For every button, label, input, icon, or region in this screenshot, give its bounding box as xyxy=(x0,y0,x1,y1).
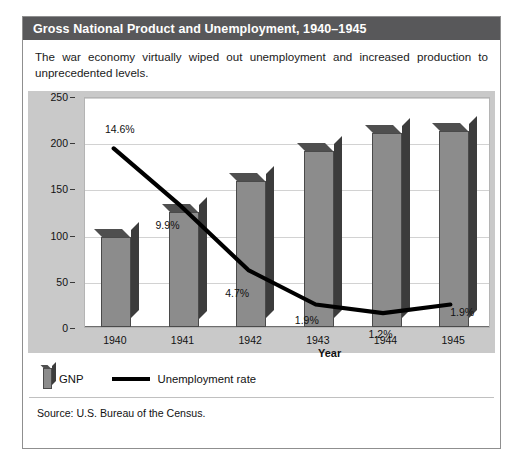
y-tick-mark xyxy=(70,236,75,237)
plot-area: 14.6%9.9%4.7%1.9%1.2%1.9% xyxy=(84,97,490,328)
figure-title: Gross National Product and Unemployment,… xyxy=(33,22,367,36)
bar-swatch-icon xyxy=(43,368,52,389)
figure-box: Gross National Product and Unemployment,… xyxy=(22,16,501,449)
chart-legend: GNP Unemployment rate xyxy=(29,359,494,398)
y-tick-label: 50 xyxy=(56,276,68,288)
line-series-unemployment xyxy=(85,98,489,328)
point-label-1941: 9.9% xyxy=(156,219,180,231)
x-tick-label-1944: 1944 xyxy=(374,334,397,346)
x-tick-label-1945: 1945 xyxy=(441,334,464,346)
y-tick-label: 250 xyxy=(50,91,68,103)
figure-header: Gross National Product and Unemployment,… xyxy=(23,17,500,40)
y-tick-label: 100 xyxy=(50,230,68,242)
x-tick-label-1940: 1940 xyxy=(103,334,126,346)
x-tick-label-1941: 1941 xyxy=(171,334,194,346)
y-tick-label: 0 xyxy=(62,322,68,334)
x-axis-title: Year xyxy=(318,347,341,359)
x-tick-label-1942: 1942 xyxy=(238,334,261,346)
point-label-1942: 4.7% xyxy=(225,287,249,299)
point-label-1943: 1.9% xyxy=(295,314,319,326)
legend-label-unemployment: Unemployment rate xyxy=(157,373,256,385)
figure-intro-text: The war economy virtually wiped out unem… xyxy=(23,40,500,86)
x-tick-label-1943: 1943 xyxy=(306,334,329,346)
y-tick-mark xyxy=(70,97,75,98)
legend-label-gnp: GNP xyxy=(59,373,83,385)
y-tick-mark xyxy=(70,328,75,329)
point-label-1940: 14.6% xyxy=(105,123,135,135)
y-tick-mark xyxy=(70,282,75,283)
chart-panel: GNP (in billions of dollars) 05010015020… xyxy=(28,91,495,353)
y-tick-label: 200 xyxy=(50,137,68,149)
line-swatch-icon xyxy=(112,377,150,381)
y-tick-mark xyxy=(70,143,75,144)
point-label-1945: 1.9% xyxy=(450,306,474,318)
figure-source: Source: U.S. Bureau of the Census. xyxy=(23,398,500,419)
y-tick-mark xyxy=(70,189,75,190)
y-tick-label: 150 xyxy=(50,183,68,195)
